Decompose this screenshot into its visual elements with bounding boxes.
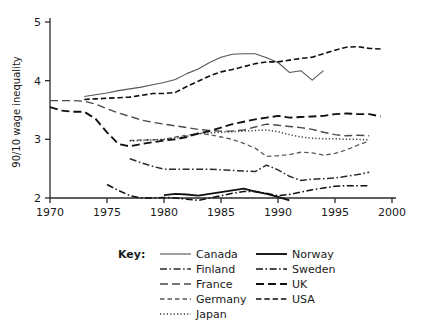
legend-label-norway: Norway (292, 248, 334, 261)
y-tick-label: 3 (34, 133, 41, 146)
x-tick-label: 1980 (150, 206, 178, 219)
legend-label-germany: Germany (196, 293, 247, 306)
x-tick-label: 1970 (36, 206, 64, 219)
axis-lines (50, 18, 396, 198)
y-tick-label: 2 (34, 192, 41, 205)
chart-series-group (50, 47, 381, 201)
y-axis-title: 90/10 wage inequality (11, 56, 22, 168)
x-tick-label: 1995 (321, 206, 349, 219)
legend-label-japan: Japan (195, 308, 227, 321)
chart-legend: Key:CanadaFinlandFranceGermanyJapanNorwa… (118, 248, 335, 321)
x-tick-label: 1975 (93, 206, 121, 219)
y-tick-label: 5 (34, 16, 41, 29)
line-chart: 23451970197519801985199019952000 Key:Can… (0, 0, 422, 321)
legend-label-usa: USA (292, 293, 315, 306)
legend-title: Key: (118, 248, 145, 261)
series-line-uk (50, 107, 381, 146)
series-line-finland (130, 159, 369, 181)
y-tick-label: 4 (34, 75, 41, 88)
legend-label-france: France (196, 278, 233, 291)
legend-label-uk: UK (292, 278, 308, 291)
series-line-japan (130, 130, 369, 141)
x-tick-label: 2000 (378, 206, 406, 219)
legend-label-finland: Finland (196, 263, 235, 276)
x-tick-label: 1990 (264, 206, 292, 219)
series-line-germany (130, 133, 369, 156)
legend-label-sweden: Sweden (292, 263, 335, 276)
legend-label-canada: Canada (196, 248, 238, 261)
chart-axes: 23451970197519801985199019952000 (34, 16, 406, 219)
chart-figure: 23451970197519801985199019952000 Key:Can… (0, 0, 422, 321)
x-tick-label: 1985 (207, 206, 235, 219)
